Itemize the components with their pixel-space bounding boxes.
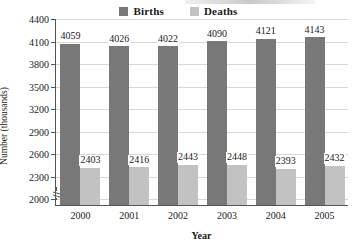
bar-deaths: 2416	[129, 167, 149, 205]
bar-births: 4143	[305, 37, 325, 205]
x-axis-tick-label: 2001	[119, 210, 139, 221]
y-axis-tick-label: 3500	[29, 81, 56, 92]
bar-births: 4022	[158, 46, 178, 205]
bar-value-label: 2416	[128, 155, 150, 166]
bar-value-label: 4059	[59, 31, 81, 42]
axis-break-icon	[52, 187, 61, 200]
x-axis-tick-label: 2005	[315, 210, 335, 221]
x-axis-title: Year	[55, 230, 348, 241]
bar-group: 409024482003	[203, 19, 252, 205]
legend-label-births: Births	[133, 6, 164, 17]
bar-value-label: 4022	[157, 34, 179, 45]
bar-group: 402624162001	[105, 19, 154, 205]
bar-deaths: 2448	[227, 165, 247, 205]
legend-swatch-births	[119, 7, 128, 16]
x-axis-tick-label: 2000	[70, 210, 90, 221]
x-axis-tick-label: 2002	[168, 210, 188, 221]
bar-groups: 4059240320004026241620014022244320024090…	[56, 19, 348, 205]
bar-deaths: 2443	[178, 165, 198, 205]
bar-group: 402224432002	[154, 19, 203, 205]
chart-root: Births Deaths Number (thousands) 4400410…	[0, 0, 357, 244]
bar-group: 414324322005	[300, 19, 349, 205]
bar-value-label: 4121	[255, 26, 277, 37]
x-axis-tick-label: 2003	[217, 210, 237, 221]
bar-births: 4121	[256, 39, 276, 205]
plot-area: 440041003800350032002900260023002000 405…	[55, 19, 348, 206]
bar-value-label: 2443	[177, 152, 199, 163]
bar-value-label: 2403	[79, 155, 101, 166]
legend-label-deaths: Deaths	[204, 6, 238, 17]
legend-swatch-deaths	[190, 7, 199, 16]
bar-value-label: 4026	[108, 34, 130, 45]
bar-deaths: 2393	[276, 169, 296, 205]
y-axis-title: Number (thousands)	[0, 0, 9, 56]
y-axis-tick-label: 2900	[29, 126, 56, 137]
bar-value-label: 2448	[226, 152, 248, 163]
bar-deaths: 2432	[325, 166, 345, 205]
bar-births: 4059	[60, 44, 80, 205]
bar-value-label: 4143	[304, 25, 326, 36]
legend-item-births: Births	[119, 6, 164, 17]
y-axis-tick-label: 4100	[29, 36, 56, 47]
bar-births: 4090	[207, 41, 227, 205]
y-axis-tick-label: 3200	[29, 104, 56, 115]
y-axis-tick-label: 3800	[29, 59, 56, 70]
bar-births: 4026	[109, 46, 129, 205]
y-axis-tick-label: 2300	[29, 171, 56, 182]
y-axis-title-text: Number (thousands)	[0, 87, 9, 165]
bar-value-label: 2393	[275, 156, 297, 167]
y-axis-tick-label: 2600	[29, 149, 56, 160]
legend-item-deaths: Deaths	[190, 6, 238, 17]
x-axis-tick-label: 2004	[266, 210, 286, 221]
bar-group: 412123932004	[251, 19, 300, 205]
bar-deaths: 2403	[80, 168, 100, 205]
bar-value-label: 4090	[206, 29, 228, 40]
bar-value-label: 2432	[324, 153, 346, 164]
bar-group: 405924032000	[56, 19, 105, 205]
y-axis-tick-label: 4400	[29, 14, 56, 25]
